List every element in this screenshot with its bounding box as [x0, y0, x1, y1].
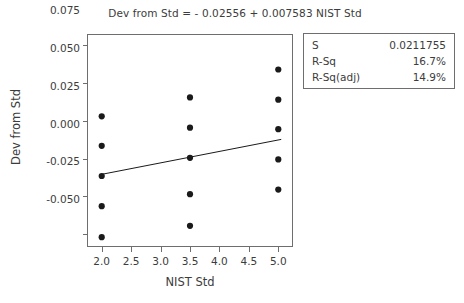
x-tick-label: 5.0 [258, 255, 298, 267]
statistics-row: R-Sq(adj)14.9% [304, 69, 454, 85]
statistics-value: 0.0211755 [389, 37, 446, 53]
y-axis-tick-labels: 0.0750.0500.0250.000-0.025-0.050 [28, 0, 80, 213]
statistics-row: S0.0211755 [304, 37, 454, 53]
data-point [275, 156, 281, 162]
x-tick-mark [219, 247, 220, 252]
y-tick-label: 0.075 [32, 4, 80, 16]
data-point [99, 113, 105, 119]
y-tick-label: 0.025 [32, 80, 80, 92]
data-point [187, 191, 193, 197]
data-point [187, 223, 193, 229]
data-point [187, 155, 193, 161]
statistics-key: R-Sq [312, 53, 336, 69]
data-point [275, 186, 281, 192]
y-tick-label: 0.000 [32, 118, 80, 130]
chart-title: Dev from Std = - 0.02556 + 0.007583 NIST… [60, 7, 410, 19]
data-point [187, 94, 193, 100]
plot-canvas [87, 34, 293, 247]
y-tick-label: 0.050 [32, 42, 80, 54]
statistics-key: R-Sq(adj) [312, 69, 360, 85]
data-point [99, 203, 105, 209]
statistics-key: S [312, 37, 319, 53]
y-tick-label: -0.050 [32, 193, 80, 205]
x-tick-mark [249, 247, 250, 252]
data-point [275, 126, 281, 132]
x-tick-mark [190, 247, 191, 252]
data-point [99, 173, 105, 179]
statistics-row: R-Sq16.7% [304, 53, 454, 69]
x-tick-mark [161, 247, 162, 252]
data-point [275, 97, 281, 103]
x-tick-mark [102, 247, 103, 252]
x-axis-title: NIST Std [87, 275, 293, 289]
x-tick-mark [278, 247, 279, 252]
y-tick-label: -0.025 [32, 155, 80, 167]
statistics-value: 16.7% [413, 53, 446, 69]
data-point [187, 125, 193, 131]
data-point [275, 66, 281, 72]
y-axis-title: Dev from Std [9, 47, 23, 207]
fitted-line-plot: Dev from Std = - 0.02556 + 0.007583 NIST… [0, 0, 464, 303]
statistics-box: S0.0211755R-Sq16.7%R-Sq(adj)14.9% [303, 33, 455, 89]
statistics-value: 14.9% [413, 69, 446, 85]
x-tick-mark [131, 247, 132, 252]
data-point [99, 234, 105, 240]
data-point [99, 143, 105, 149]
